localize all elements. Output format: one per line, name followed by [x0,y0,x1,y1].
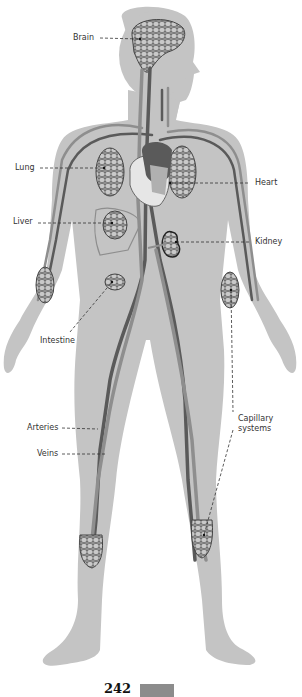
circulatory-diagram [0,0,302,697]
label-heart: Heart [255,178,277,188]
page-number: 242 [104,681,131,696]
liver-capillaries [103,211,127,239]
lung-right [168,146,196,198]
label-liver: Liver [13,217,33,227]
label-brain: Brain [73,33,94,43]
label-capillary-systems: Capillary systems [238,414,273,434]
page-tab-marker [140,684,174,697]
arm-capillaries-left [36,267,54,303]
label-kidney: Kidney [255,237,282,247]
label-arteries: Arteries [27,423,58,433]
label-veins: Veins [37,449,58,459]
lung-left [96,148,124,196]
intestine-capillaries [105,274,125,290]
label-lung: Lung [15,163,35,173]
label-intestine: Intestine [40,336,75,346]
